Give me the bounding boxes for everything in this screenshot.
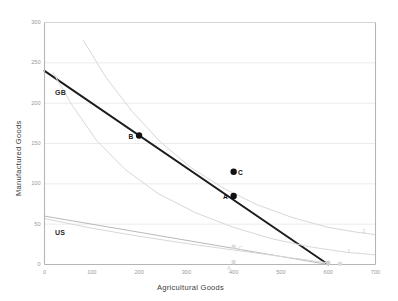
series-label-US: US xyxy=(55,229,66,236)
ghost-point-A xyxy=(231,260,236,265)
y-tick-100: 100 xyxy=(21,180,41,186)
ghost-point-origin-1 xyxy=(326,261,331,266)
curve-label-1: 1 xyxy=(347,248,350,254)
point-B-label: B xyxy=(129,133,134,140)
point-A-label: A xyxy=(223,193,228,200)
y-tick-250: 250 xyxy=(21,59,41,65)
ghost-point-origin-2 xyxy=(338,261,343,266)
x-tick-200: 200 xyxy=(129,269,149,275)
series-label-GB: GB xyxy=(55,89,66,96)
curve-label-2: 2 xyxy=(362,228,365,234)
y-tick-150: 150 xyxy=(21,140,41,146)
x-tick-300: 300 xyxy=(176,269,196,275)
point-C xyxy=(230,169,236,175)
ppf-chart: Manufactured Goods Agricultural Goods CA… xyxy=(0,0,398,301)
x-axis-title: Agricultural Goods xyxy=(157,283,224,292)
y-tick-50: 50 xyxy=(21,221,41,227)
plot-canvas xyxy=(0,0,398,301)
ghost-point-C xyxy=(231,244,236,249)
x-tick-600: 600 xyxy=(318,269,338,275)
point-B xyxy=(136,132,142,138)
ghost-point-C-label: C xyxy=(238,245,242,251)
y-tick-0: 0 xyxy=(21,261,41,267)
y-tick-300: 300 xyxy=(21,19,41,25)
x-tick-700: 700 xyxy=(366,269,386,275)
x-tick-400: 400 xyxy=(224,269,244,275)
x-tick-100: 100 xyxy=(82,269,102,275)
y-tick-200: 200 xyxy=(21,100,41,106)
x-tick-500: 500 xyxy=(271,269,291,275)
point-C-label: C xyxy=(238,169,243,176)
point-A xyxy=(230,193,236,199)
x-tick-0: 0 xyxy=(35,269,55,275)
